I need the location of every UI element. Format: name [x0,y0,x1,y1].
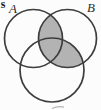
set-b-label: B [87,0,95,15]
venn-diagram-figure: A B s [0,0,101,110]
page-text-fragment: s [1,0,6,11]
venn-diagram-canvas: A B s [0,0,101,110]
set-a-label: A [8,1,17,16]
cut-off-label-fragment [52,107,64,109]
